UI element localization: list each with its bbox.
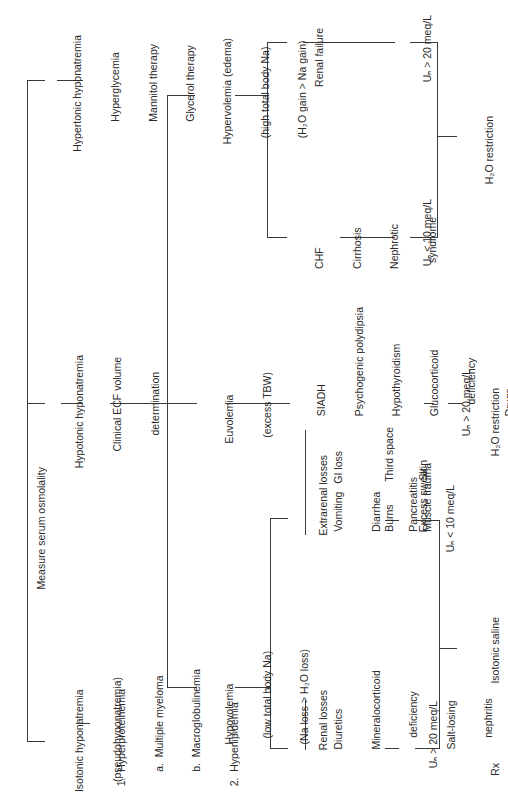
connector-chf-a — [267, 237, 287, 238]
cause-siadh: SIADH — [315, 307, 328, 416]
euvolemia-line1: Euvolemia — [223, 372, 236, 444]
hypervolemia-line2: (high total body Na) — [259, 38, 272, 144]
hypertonic-causes: Hyperglycemia Mannitol therapy Glycerol … — [84, 44, 209, 122]
hypervolemia-line1: Hypervolemia (edema) — [221, 38, 234, 144]
rx-text: Rx — [489, 763, 502, 776]
hypotonic-label: Hypotonic hyponatremia — [73, 355, 86, 468]
un-lt-10-hypervolemia: Uₙ < 10 meq/L — [421, 199, 434, 266]
connector-h2o-restriction-1 — [437, 136, 457, 137]
euvolemia-line2: (excess TBW) — [261, 372, 274, 444]
un-gt-20-hypervolemia: Uₙ > 20 meq/L — [421, 15, 434, 82]
ecf-line1: Clinical ECF volume — [111, 357, 124, 452]
cause-mineralocorticoid: Mineralocorticoid — [370, 639, 383, 750]
hypertonic-label: Hypertonic hyponatremia — [71, 35, 84, 152]
cause-diuretics: Diuretics — [332, 639, 345, 750]
connector-hypotonic — [27, 403, 45, 404]
cause-hyperglycemia: Hyperglycemia — [109, 44, 122, 122]
cause-multiple-myeloma: a. Multiple myeloma — [153, 669, 166, 786]
edema-un: Uₙ < 10 meq/L — [396, 199, 446, 266]
extrarenal-losses-un: Uₙ < 10 meq/L — [419, 485, 469, 552]
cause-glycerol: Glycerol therapy — [184, 44, 197, 122]
connector-hypertonic — [27, 80, 45, 81]
cause-chf: CHF — [313, 217, 326, 269]
renal-failure-un: Uₙ > 20 meq/L — [396, 15, 446, 82]
root-measure-serum-osmolality: Measure serum osmolality — [10, 467, 60, 590]
ecf-line2: determination — [149, 357, 162, 452]
hypovolemia-line1: Hypovolemia — [223, 649, 236, 744]
isotonic-line1: Isotonic hyponatremia — [73, 677, 86, 792]
h2o-restriction-euvolemia: H₂O restriction — [464, 388, 508, 456]
euvolemia-title: Euvolemia (excess TBW) — [198, 372, 286, 444]
h2o-restriction-hypervolemia: H₂O restriction — [458, 116, 508, 184]
cause-psychogenic-polydipsia: Psychogenic polydipsia — [353, 307, 366, 416]
cause-mannitol: Mannitol therapy — [147, 44, 160, 122]
rx-h2o-restriction-1: H₂O restriction — [483, 116, 496, 184]
un-gt-20-renal: Uₙ > 20 meq/L — [427, 701, 440, 768]
ecf-determination: Clinical ECF volume determination — [86, 357, 174, 452]
rx-h2o-restriction-2: H₂O restriction — [489, 388, 502, 456]
connector-renal-losses — [270, 748, 288, 749]
cause-hypothyroidism: Hypothyroidism — [390, 307, 403, 416]
rx-isotonic-saline: Isotonic saline — [489, 617, 502, 684]
cause-cirrhosis: Cirrhosis — [351, 217, 364, 269]
cause-hyperproteinemia: 1. Hyperproteinemia — [115, 669, 128, 786]
un-lt-10-extrarenal: Uₙ < 10 meq/L — [444, 485, 457, 552]
rx-row-label: Rx — [464, 763, 508, 776]
connector-isotonic — [27, 741, 45, 742]
renal-failure-label: Renal failure — [288, 28, 338, 87]
connector-extrarenal-losses — [270, 518, 288, 519]
spine-line — [27, 80, 28, 742]
renal-losses-un: Uₙ > 20 meq/L — [402, 701, 452, 768]
root-label: Measure serum osmolality — [35, 467, 48, 590]
hypovolemia-line2: (low total body Na) — [261, 649, 274, 744]
renal-failure-text: Renal failure — [313, 28, 326, 87]
isotonic-saline: Isotonic saline — [464, 617, 508, 684]
cause-vomiting: Vomiting — [332, 477, 345, 532]
